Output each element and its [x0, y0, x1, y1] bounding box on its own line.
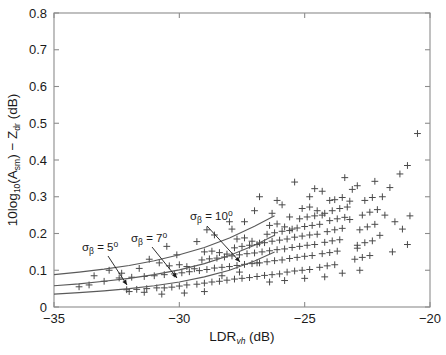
data-point	[404, 241, 411, 248]
data-point	[163, 243, 170, 250]
data-point	[256, 193, 263, 200]
y-tick-label: 0	[40, 300, 47, 315]
data-point	[286, 214, 293, 221]
data-point	[371, 178, 378, 185]
data-point	[254, 273, 261, 280]
y-tick-label: 0.7	[29, 42, 47, 57]
data-point	[201, 288, 208, 295]
data-point	[274, 197, 281, 204]
data-point	[279, 257, 286, 264]
data-point	[351, 256, 358, 263]
data-point	[264, 258, 271, 265]
data-point	[361, 197, 368, 204]
data-point	[244, 250, 251, 257]
data-point	[404, 162, 411, 169]
data-point	[309, 222, 316, 229]
data-point	[339, 225, 346, 232]
data-point	[209, 279, 216, 286]
data-point	[334, 215, 341, 222]
data-point	[304, 214, 311, 221]
data-point	[204, 226, 211, 233]
data-point	[261, 272, 268, 279]
data-point	[306, 232, 313, 239]
data-point	[209, 248, 216, 255]
data-point	[414, 130, 421, 137]
data-point	[231, 276, 238, 283]
data-point	[354, 245, 361, 252]
data-point	[246, 274, 253, 281]
data-point	[274, 221, 281, 228]
data-point	[276, 237, 283, 244]
data-point	[301, 253, 308, 260]
data-point	[168, 284, 175, 291]
data-point	[299, 267, 306, 274]
data-point	[311, 185, 318, 192]
data-point	[193, 281, 200, 288]
data-point	[366, 252, 373, 259]
data-point	[291, 234, 298, 241]
data-point	[336, 205, 343, 212]
data-point	[274, 246, 281, 253]
data-point	[379, 193, 386, 200]
data-point	[407, 212, 414, 219]
scatter-plot: −35−30−25−2000.10.20.30.40.50.60.70.8LDR…	[0, 0, 446, 355]
data-point	[91, 272, 98, 279]
data-point	[319, 250, 326, 257]
data-point	[296, 215, 303, 222]
data-point	[326, 249, 333, 256]
data-point	[331, 261, 338, 268]
data-point	[359, 254, 366, 261]
data-point	[306, 204, 313, 211]
data-point	[336, 236, 343, 243]
y-tick-label: 0.5	[29, 116, 47, 131]
data-point	[316, 221, 323, 228]
annotation-sigma-beta-7: σβ = 7o	[131, 230, 168, 247]
data-point	[291, 179, 298, 186]
data-point	[269, 238, 276, 245]
figure-container: −35−30−25−2000.10.20.30.40.50.60.70.8LDR…	[0, 0, 446, 355]
data-point	[239, 243, 246, 250]
data-point	[354, 182, 361, 189]
data-point	[299, 205, 306, 212]
data-point	[324, 262, 331, 269]
data-point	[361, 239, 368, 246]
data-point	[369, 194, 376, 201]
data-point	[219, 264, 226, 271]
data-point	[366, 209, 373, 216]
data-point	[349, 186, 356, 193]
data-point	[356, 267, 363, 274]
data-point	[239, 275, 246, 282]
data-point	[224, 277, 231, 284]
data-point	[339, 194, 346, 201]
plot-frame	[54, 13, 430, 307]
data-point	[236, 269, 243, 276]
data-point	[198, 257, 205, 264]
data-point	[151, 272, 158, 279]
data-point	[399, 226, 406, 233]
data-point	[334, 248, 341, 255]
data-point	[364, 223, 371, 230]
data-point	[251, 207, 258, 214]
data-point	[359, 212, 366, 219]
data-point	[284, 269, 291, 276]
data-point	[241, 218, 248, 225]
y-tick-label: 0.1	[29, 263, 47, 278]
axis-ticks	[54, 13, 430, 307]
data-point	[284, 236, 291, 243]
data-point	[306, 266, 313, 273]
data-point	[299, 233, 306, 240]
data-point	[329, 207, 336, 214]
y-axis-title: 10log10(Asm) − Zdr (dB)	[5, 94, 22, 226]
data-point	[324, 228, 331, 235]
y-tick-label: 0.4	[29, 153, 47, 168]
data-point	[369, 237, 376, 244]
data-point	[356, 226, 363, 233]
y-tick-label: 0.2	[29, 226, 47, 241]
data-point	[344, 204, 351, 211]
data-point	[291, 268, 298, 275]
data-point	[181, 290, 188, 297]
curve-annotations: σβ = 5oσβ = 7oσβ = 10o	[82, 208, 233, 256]
data-point	[294, 225, 301, 232]
data-point	[294, 254, 301, 261]
data-point	[231, 244, 238, 251]
